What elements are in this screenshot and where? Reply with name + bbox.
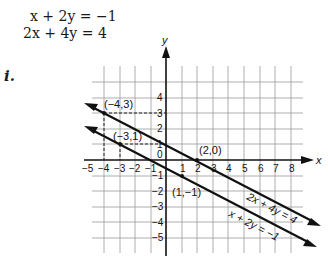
svg-text:1: 1 [180, 163, 186, 174]
point-1-m1 [180, 174, 184, 178]
svg-text:−1: −1 [152, 170, 164, 181]
svg-text:−4: −4 [152, 217, 164, 228]
x-axis-label: x [315, 154, 322, 166]
label-point-2-0: (2,0) [199, 144, 222, 156]
y-axis-label: y [161, 34, 169, 46]
point-m3-1 [118, 142, 122, 146]
svg-text:6: 6 [258, 163, 264, 174]
label-point-m4-3: (−4,3) [104, 98, 133, 110]
svg-text:2: 2 [195, 163, 201, 174]
svg-text:−5: −5 [82, 163, 94, 174]
label-point-1-m1: (1,−1) [172, 186, 201, 198]
svg-text:2: 2 [157, 123, 163, 134]
svg-text:−3: −3 [114, 163, 126, 174]
svg-text:4: 4 [226, 163, 232, 174]
y-axis-arrow-icon [162, 46, 170, 58]
svg-text:5: 5 [242, 163, 248, 174]
svg-text:−5: −5 [152, 232, 164, 243]
svg-text:7: 7 [273, 163, 279, 174]
svg-text:−2: −2 [129, 163, 141, 174]
svg-text:−3: −3 [152, 201, 164, 212]
svg-text:−2: −2 [152, 186, 164, 197]
svg-text:0: 0 [157, 149, 163, 160]
point-2-0 [195, 158, 199, 162]
label-point-m3-1: (−3,1) [113, 130, 142, 142]
point-m4-3 [102, 111, 106, 115]
svg-text:8: 8 [289, 163, 295, 174]
x-axis-arrow-icon [301, 156, 314, 164]
svg-text:−4: −4 [98, 163, 110, 174]
svg-text:4: 4 [157, 92, 163, 103]
graph: x y −5 −4 −3 −2 −1 1 2 3 4 5 6 7 8 4 3 2… [0, 0, 328, 264]
x-tick-labels: −5 −4 −3 −2 −1 1 2 3 4 5 6 7 8 [82, 163, 295, 174]
